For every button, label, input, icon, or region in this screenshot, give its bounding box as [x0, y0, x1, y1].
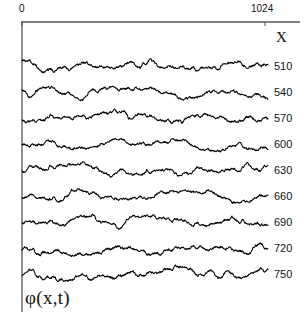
trace-label: 690: [274, 217, 292, 228]
trace-line: [22, 59, 268, 73]
x-axis-title: X: [276, 30, 287, 45]
trace-line: [22, 243, 268, 257]
trace-label: 660: [274, 191, 292, 202]
trace-label: 510: [274, 61, 292, 72]
trace-line: [22, 189, 268, 204]
trace-line: [22, 138, 268, 152]
figure-panel: 0 1024 X φ(x,t) 510540570600630660690720…: [0, 0, 304, 320]
trace-label: 540: [274, 87, 292, 98]
trace-line: [22, 109, 268, 124]
trace-label: 630: [274, 165, 292, 176]
x-axis-tick-label-min: 0: [19, 4, 25, 14]
trace-line: [22, 265, 268, 281]
trace-line: [22, 214, 268, 229]
axes-group: [21, 22, 300, 312]
trace-line: [22, 162, 268, 178]
trace-label: 570: [274, 113, 292, 124]
traces-group: [22, 59, 268, 282]
trace-label: 750: [274, 269, 292, 280]
trace-label: 720: [274, 243, 292, 254]
trace-line: [22, 86, 268, 100]
plot-canvas: [0, 0, 304, 320]
x-axis-tick-label-max: 1024: [251, 4, 273, 14]
trace-label: 600: [274, 139, 292, 150]
y-axis-title: φ(x,t): [25, 288, 70, 307]
